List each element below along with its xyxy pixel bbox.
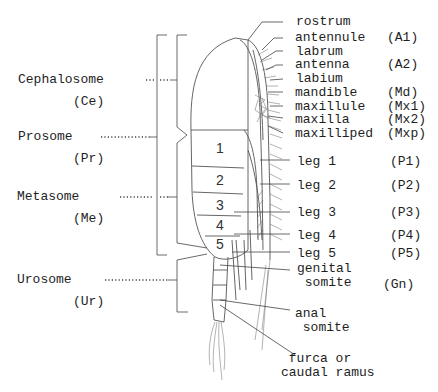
- part-abbr-antenna: (A2): [387, 58, 418, 72]
- part-abbr-maxilla: (Mx2): [387, 113, 426, 127]
- tagma-prosome-abbr: (Pr): [73, 152, 104, 166]
- part-label-anal-somite: anal somite: [295, 307, 350, 335]
- part-label-leg-5: leg 5: [297, 247, 336, 261]
- segment-number-5: 5: [216, 236, 224, 252]
- part-abbr-leg-2: (P2): [390, 179, 421, 193]
- part-abbr-leg-5: (P5): [390, 247, 421, 261]
- part-label-leg-2: leg 2: [297, 179, 336, 193]
- part-label-labium: labium: [296, 72, 343, 86]
- urosome-outline: [212, 257, 228, 322]
- prosome-bracket: [157, 35, 167, 255]
- cephalosome-bracket: [177, 35, 207, 248]
- part-label-rostrum: rostrum: [296, 15, 351, 29]
- segment-number-2: 2: [216, 172, 224, 188]
- part-label-mandible: mandible: [295, 86, 357, 100]
- part-label-antenna: antenna: [295, 58, 350, 72]
- part-label-maxilliped: maxilliped: [295, 127, 373, 141]
- part-label-genital-somite: genital somite: [297, 262, 352, 290]
- tagma-cephalosome-abbr: (Ce): [73, 95, 104, 109]
- part-abbr-leg-4: (P4): [390, 229, 421, 243]
- part-abbr-antennule: (A1): [387, 31, 418, 45]
- urosome-bracket: [177, 254, 207, 312]
- tagma-urosome-abbr: (Ur): [73, 295, 104, 309]
- tagma-prosome-label: Prosome: [18, 130, 73, 144]
- tagma-metasome-abbr: (Me): [73, 212, 104, 226]
- segment-number-4: 4: [216, 217, 224, 233]
- part-label-leg-1: leg 1: [297, 155, 336, 169]
- part-label-leg-4: leg 4: [297, 229, 336, 243]
- part-label-furca: furca or caudal ramus: [281, 352, 375, 380]
- segment-number-1: 1: [216, 140, 224, 156]
- part-label-maxilla: maxilla: [295, 113, 350, 127]
- segment-number-3: 3: [216, 197, 224, 213]
- part-abbr-leg-1: (P1): [390, 155, 421, 169]
- copepod-diagram: Cephalosome (Ce) Prosome (Pr) Metasome (…: [0, 0, 438, 392]
- part-label-leg-3: leg 3: [297, 206, 336, 220]
- part-abbr-maxilliped: (Mxp): [387, 127, 426, 141]
- tagma-urosome-label: Urosome: [17, 273, 72, 287]
- tagma-metasome-label: Metasome: [17, 190, 79, 204]
- part-abbr-mandible: (Md): [387, 86, 418, 100]
- part-abbr-genital-somite: (Gn): [383, 278, 414, 292]
- caudal-setae: [209, 260, 270, 380]
- part-abbr-leg-3: (P3): [390, 206, 421, 220]
- tagma-cephalosome-label: Cephalosome: [18, 73, 104, 87]
- part-label-antennule: antennule: [295, 31, 365, 45]
